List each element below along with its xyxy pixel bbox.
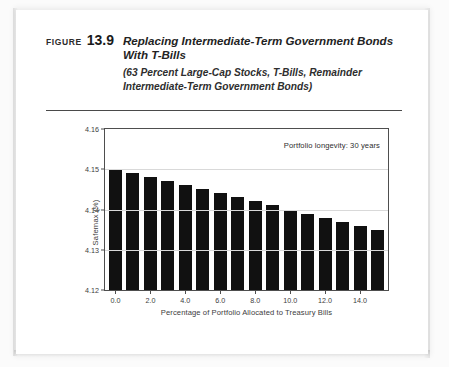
y-tick-mark — [101, 290, 105, 291]
x-tick-mark — [185, 290, 186, 294]
y-tick-label: 4.12 — [85, 286, 99, 295]
y-tick-label: 4.15 — [85, 165, 99, 174]
figure-caption: FIGURE 13.9 Replacing Intermediate-Term … — [46, 32, 402, 94]
x-tick-mark — [290, 290, 291, 294]
bar — [371, 230, 384, 290]
bar — [354, 226, 367, 290]
caption-divider — [46, 110, 402, 111]
y-tick-label: 4.16 — [85, 125, 99, 134]
y-tick-mark — [101, 129, 105, 130]
bar — [161, 181, 174, 290]
bar — [214, 193, 227, 290]
x-tick-label: 6.0 — [215, 296, 225, 305]
y-tick-label: 4.13 — [85, 245, 99, 254]
x-tick-label: 4.0 — [180, 296, 190, 305]
x-axis-label: Percentage of Portfolio Allocated to Tre… — [104, 308, 389, 317]
figure-page: FIGURE 13.9 Replacing Intermediate-Term … — [0, 0, 449, 367]
bar — [231, 197, 244, 290]
figure-caption-headline: FIGURE 13.9 Replacing Intermediate-Term … — [46, 32, 402, 94]
x-tick-label: 8.0 — [250, 296, 260, 305]
chart: Safemax (%) Portfolio longevity: 30 year… — [46, 122, 402, 330]
bar — [144, 177, 157, 290]
y-tick-label: 4.14 — [85, 205, 99, 214]
bar — [319, 218, 332, 290]
y-axis-label: Safemax (%) — [91, 168, 100, 278]
figure-title-block: Replacing Intermediate-Term Government B… — [123, 34, 402, 94]
x-tick-label: 14.0 — [353, 296, 367, 305]
y-gridline — [105, 210, 388, 211]
x-tick-label: 2.0 — [145, 296, 155, 305]
bar — [301, 214, 314, 290]
figure-subtitle: (63 Percent Large-Cap Stocks, T-Bills, R… — [123, 66, 402, 94]
x-tick-mark — [220, 290, 221, 294]
figure-title: Replacing Intermediate-Term Government B… — [123, 34, 402, 63]
x-tick-label: 12.0 — [318, 296, 332, 305]
figure-label-word: FIGURE — [46, 37, 87, 47]
y-gridline — [105, 169, 388, 170]
x-tick-mark — [360, 290, 361, 294]
y-tick-mark — [101, 169, 105, 170]
plot-area: Portfolio longevity: 30 years 4.124.134.… — [104, 128, 389, 291]
x-tick-label: 0.0 — [110, 296, 120, 305]
bar — [126, 173, 139, 290]
bar — [179, 185, 192, 290]
y-gridline — [105, 250, 388, 251]
bar — [249, 201, 262, 290]
x-tick-mark — [150, 290, 151, 294]
figure-number: 13.9 — [87, 32, 123, 48]
x-tick-label: 10.0 — [283, 296, 297, 305]
bar — [196, 189, 209, 290]
y-tick-mark — [101, 209, 105, 210]
bar — [336, 222, 349, 290]
bar — [109, 169, 122, 290]
x-tick-mark — [255, 290, 256, 294]
y-tick-mark — [101, 249, 105, 250]
x-tick-mark — [115, 290, 116, 294]
x-tick-mark — [325, 290, 326, 294]
bar — [266, 205, 279, 290]
